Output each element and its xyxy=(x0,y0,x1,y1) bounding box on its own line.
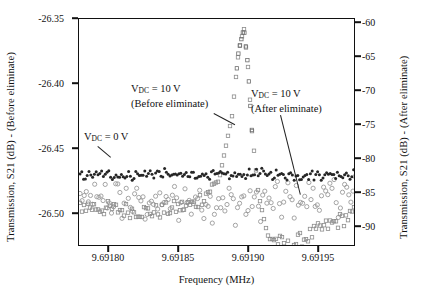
y-tick-label-right: -70 xyxy=(362,85,375,96)
y-tick-label-left: -26.45 xyxy=(38,143,64,154)
annotation-after-line2: (After eliminate) xyxy=(251,102,322,115)
annotation-before-line1: VDC = 10 V xyxy=(131,82,208,97)
y-tick-mark-right xyxy=(355,157,361,159)
y-tick-label-left: -26.35 xyxy=(38,13,64,24)
x-tick-label: 9.69195 xyxy=(302,252,335,263)
y-tick-label-left: -26.50 xyxy=(38,208,64,219)
annotation-before-eliminate: VDC = 10 V (Before eliminate) xyxy=(131,82,208,110)
y-tick-mark-right xyxy=(355,123,361,125)
y-tick-label-right: -65 xyxy=(362,51,375,62)
y-tick-label-left: -26.40 xyxy=(38,78,64,89)
y-tick-mark-right xyxy=(355,21,361,23)
x-tick-label: 9.69180 xyxy=(92,252,125,263)
annotation-before-line2: (Before eliminate) xyxy=(131,97,208,110)
annotation-vdc-0v-text: VDC = 0 V xyxy=(84,131,128,142)
y-tick-label-right: -80 xyxy=(362,153,375,164)
y-tick-mark-right xyxy=(355,55,361,57)
x-tick-label: 9.69190 xyxy=(232,252,265,263)
y-tick-label-right: -60 xyxy=(362,17,375,28)
series-after-eliminate xyxy=(79,174,355,227)
y-tick-mark-right xyxy=(355,225,361,227)
figure-panel: Transmission, S21 (dB) - (Before elimina… xyxy=(0,0,422,299)
x-tick-label: 9.69185 xyxy=(162,252,195,263)
y-tick-label-right: -75 xyxy=(362,119,375,130)
annotation-vdc-0v: VDC = 0 V xyxy=(84,130,128,145)
y-tick-label-right: -90 xyxy=(362,221,375,232)
y-axis-label-right: Transmission, S21 (dB) - (After eliminat… xyxy=(398,22,409,272)
x-axis-label: Frequency (MHz) xyxy=(78,274,355,285)
y-tick-label-right: -85 xyxy=(362,187,375,198)
annotation-after-line1: VDC = 10 V xyxy=(251,87,322,102)
y-axis-label-left: Transmission, S21 (dB) - (Before elimina… xyxy=(5,22,16,272)
annotation-after-eliminate: VDC = 10 V (After eliminate) xyxy=(251,87,322,115)
y-tick-mark-right xyxy=(355,191,361,193)
y-tick-mark-right xyxy=(355,89,361,91)
series-vdc-0v xyxy=(79,167,355,182)
